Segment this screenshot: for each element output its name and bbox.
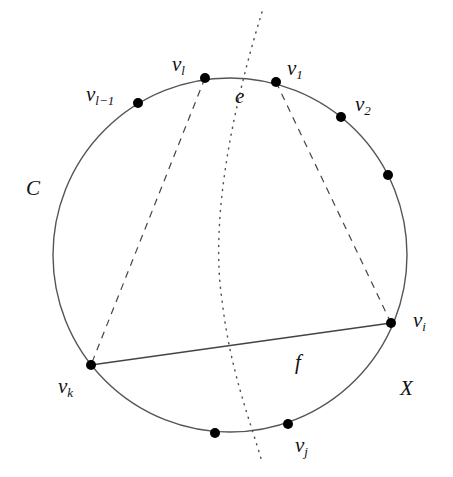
label-v-l: vl	[172, 54, 185, 77]
label-region-x: X	[400, 378, 413, 399]
dashed-edge-vl-vk	[91, 78, 205, 365]
label-face-f: f	[295, 352, 301, 373]
vertex-dot-unlabeled-bottom	[210, 428, 220, 438]
vertex-dot-vl	[200, 73, 210, 83]
label-v-i: vi	[413, 310, 426, 333]
label-cycle-c: C	[26, 178, 40, 199]
vertex-dot-unlabeled-right	[383, 170, 393, 180]
vertex-dot-vj	[283, 419, 293, 429]
dashed-edge-v1-vi	[276, 82, 391, 323]
vertex-dots	[86, 73, 396, 438]
label-v-1: v1	[287, 58, 303, 81]
vertex-dot-v1	[271, 77, 281, 87]
label-v-2: v2	[355, 94, 371, 117]
diagram-canvas	[0, 0, 453, 477]
label-v-j: vj	[295, 435, 308, 458]
label-v-k: vk	[58, 376, 73, 399]
label-v-l-minus-1: vl−1	[86, 84, 114, 107]
vertex-dot-vi	[386, 318, 396, 328]
vertex-dot-vl-1	[133, 98, 143, 108]
vertex-dot-v2	[336, 112, 346, 122]
label-edge-e: e	[235, 86, 244, 107]
vertex-dot-vk	[86, 360, 96, 370]
cycle-c	[53, 78, 407, 432]
edge-vk-vi	[91, 323, 391, 365]
